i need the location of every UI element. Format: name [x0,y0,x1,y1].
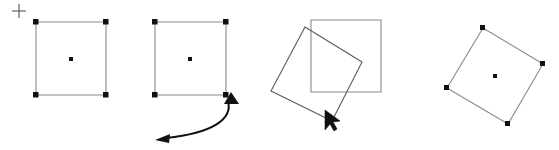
panel-4-region[interactable] [420,0,559,150]
panel-1-region[interactable] [0,0,140,150]
diagram-canvas [0,0,559,150]
panel-2-region[interactable] [140,0,255,150]
panel-3-region[interactable] [255,0,420,150]
